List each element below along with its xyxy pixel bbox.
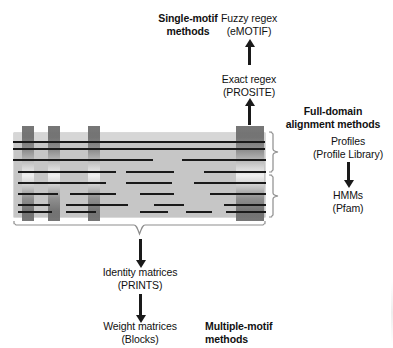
label-single-motif-methods: Single-motif methods xyxy=(158,12,217,37)
sequence-line-overlay xyxy=(18,211,52,213)
label-exact-regex: Exact regex (PROSITE) xyxy=(222,73,276,98)
sequence-line-overlay xyxy=(182,159,265,161)
sequence-line-overlay xyxy=(210,193,265,195)
sequence-line-overlay xyxy=(70,193,116,195)
label-fuzzy-regex: Fuzzy regex (eMOTIF) xyxy=(221,12,277,37)
sequence-line xyxy=(140,211,168,213)
sequence-line xyxy=(154,204,184,206)
sequence-line xyxy=(126,171,174,173)
sequence-line-overlay xyxy=(13,148,265,150)
label-profiles: Profiles (Profile Library) xyxy=(313,135,383,160)
sequence-line-overlay xyxy=(18,171,116,173)
label-identity-matrices: Identity matrices (PRINTS) xyxy=(103,266,178,291)
arrow-profiles-to-hmms xyxy=(347,162,350,181)
brace-alignment-bottom xyxy=(13,220,266,236)
arrow-block-to-identity xyxy=(139,239,142,261)
sequence-line-overlay xyxy=(66,204,128,206)
label-weight-matrices: Weight matrices (Blocks) xyxy=(103,320,177,345)
brace-profiles xyxy=(268,131,280,173)
brace-hmms xyxy=(268,174,280,218)
label-multiple-motif-methods: Multiple-motif methods xyxy=(205,320,272,345)
sequence-line xyxy=(186,211,212,213)
sequence-line-overlay xyxy=(204,171,265,173)
sequence-line-overlay xyxy=(66,211,96,213)
arrow-identity-to-weight xyxy=(139,294,142,316)
arrow-exact-to-fuzzy xyxy=(248,46,251,65)
sequence-line-overlay xyxy=(18,182,106,184)
sequence-line xyxy=(140,193,174,195)
sequence-line-overlay xyxy=(18,204,50,206)
sequence-line-overlay xyxy=(224,204,265,206)
sequence-line-overlay xyxy=(226,211,265,213)
diagram-canvas: Single-motif methods Fuzzy regex (eMOTIF… xyxy=(0,0,393,348)
arrow-block-to-exact xyxy=(248,105,251,125)
sequence-line-overlay xyxy=(18,193,58,195)
sequence-line-overlay xyxy=(13,159,153,161)
sequence-line-overlay xyxy=(194,182,265,184)
label-hmms: HMMs (Pfam) xyxy=(333,189,364,214)
label-full-domain-methods: Full-domain alignment methods xyxy=(286,105,381,130)
sequence-line xyxy=(126,182,172,184)
sequence-line-overlay xyxy=(13,141,265,143)
